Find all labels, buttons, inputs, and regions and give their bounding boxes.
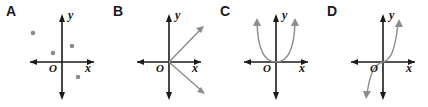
parabola-arrow-left-icon: [253, 18, 261, 26]
y-axis-label: y: [389, 9, 394, 21]
x-axis-label: x: [299, 62, 305, 74]
x-axis-arrow-left-icon: [30, 59, 37, 65]
answer-choice-panel-d[interactable]: D y x O: [321, 0, 428, 107]
rays-b: [169, 26, 205, 94]
coordinate-plane-a: [0, 0, 107, 107]
y-axis-arrow-up-icon: [380, 14, 386, 22]
x-axis-arrow-left-icon: [244, 59, 251, 65]
cubic-arrow-up-icon: [395, 19, 403, 27]
y-axis-arrow-down-icon: [380, 92, 386, 100]
coordinate-plane-b: [107, 0, 214, 107]
answer-choice-panel-b[interactable]: B y x O: [107, 0, 214, 107]
axes-a: [30, 14, 94, 100]
y-axis-arrow-up-icon: [59, 14, 65, 22]
y-axis-arrow-down-icon: [273, 92, 279, 100]
axes-d: [351, 14, 415, 100]
x-axis-label: x: [85, 62, 91, 74]
x-axis-label: x: [192, 62, 198, 74]
x-axis-label: x: [406, 62, 412, 74]
coordinate-plane-c: [214, 0, 321, 107]
y-axis-label: y: [175, 9, 180, 21]
origin-label: O: [370, 63, 378, 74]
data-point: [51, 51, 56, 56]
x-axis-arrow-left-icon: [351, 59, 358, 65]
origin-label: O: [49, 63, 57, 74]
data-point: [31, 31, 36, 36]
x-axis-arrow-left-icon: [137, 59, 144, 65]
axes-c: [244, 14, 308, 100]
origin-label: O: [156, 63, 164, 74]
answer-choice-panel-c[interactable]: C y x O: [214, 0, 321, 107]
coordinate-plane-d: [321, 0, 428, 107]
y-axis-arrow-up-icon: [273, 14, 279, 22]
y-axis-label: y: [68, 9, 73, 21]
y-axis-arrow-up-icon: [166, 14, 172, 22]
y-axis-arrow-down-icon: [166, 92, 172, 100]
data-point: [76, 75, 81, 80]
axes-b: [137, 14, 201, 100]
data-point: [70, 44, 75, 49]
multiple-choice-graph-figure: A y x O B: [0, 0, 428, 107]
y-axis-label: y: [282, 9, 287, 21]
origin-label: O: [263, 63, 271, 74]
answer-choice-panel-a[interactable]: A y x O: [0, 0, 107, 107]
ray-up-right: [169, 28, 202, 62]
cubic-arrow-down-icon: [363, 91, 371, 99]
parabola-arrow-right-icon: [291, 18, 299, 26]
y-axis-arrow-down-icon: [59, 92, 65, 100]
